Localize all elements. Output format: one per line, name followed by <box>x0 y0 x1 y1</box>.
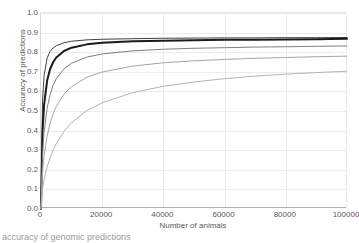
plot-area <box>40 12 346 208</box>
series-line <box>41 71 347 209</box>
x-tick-label: 40000 <box>151 210 173 219</box>
series-curves <box>41 13 347 209</box>
figure-caption: accuracy of genomic predictions <box>2 233 355 243</box>
y-tick-label: 0.7 <box>14 66 38 75</box>
x-axis-title: Number of animals <box>40 221 346 230</box>
x-tick-label: 100000 <box>333 210 359 219</box>
series-line <box>41 56 347 209</box>
series-line <box>41 46 347 209</box>
x-tick-label: 20000 <box>90 210 112 219</box>
y-tick-label: 0.9 <box>14 27 38 36</box>
y-tick-label: 0.2 <box>14 164 38 173</box>
y-tick-label: 1.0 <box>14 8 38 17</box>
y-axis-tick-labels: 0.00.10.20.30.40.50.60.70.80.91.0 <box>14 0 38 243</box>
y-tick-label: 0.5 <box>14 106 38 115</box>
y-tick-label: 0.3 <box>14 145 38 154</box>
y-tick-label: 0.6 <box>14 86 38 95</box>
x-tick-label: 0 <box>38 210 42 219</box>
y-tick-label: 0.8 <box>14 47 38 56</box>
figure-caption-text: accuracy of genomic predictions <box>2 233 355 242</box>
x-tick-label: 80000 <box>274 210 296 219</box>
series-line <box>41 39 347 209</box>
y-tick-label: 0.4 <box>14 125 38 134</box>
series-line <box>41 38 347 210</box>
x-tick-label: 60000 <box>212 210 234 219</box>
y-tick-label: 0.1 <box>14 184 38 193</box>
y-tick-label: 0.0 <box>14 204 38 213</box>
